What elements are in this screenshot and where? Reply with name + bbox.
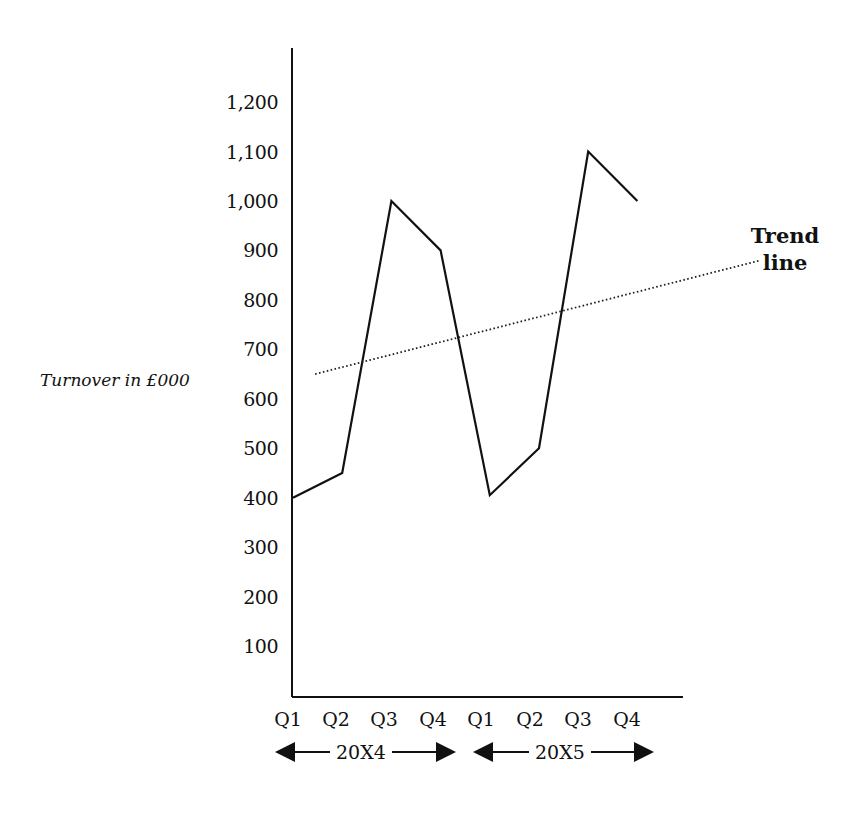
y-tick-label: 300 <box>198 537 278 557</box>
y-tick-label: 400 <box>198 488 278 508</box>
x-tick-label: Q4 <box>413 708 453 730</box>
y-axis-label: Turnover in £000 <box>40 370 190 390</box>
annotation-line-1: Trend <box>735 222 835 249</box>
x-tick-label: Q2 <box>510 708 550 730</box>
x-tick-label: Q3 <box>558 708 598 730</box>
y-tick-label: 1,200 <box>198 92 278 112</box>
turnover-line <box>293 152 637 498</box>
period-label-20x5: 20X5 <box>529 741 591 763</box>
y-tick-label: 500 <box>198 438 278 458</box>
annotation-line-2: line <box>735 249 835 276</box>
y-tick-label: 1,100 <box>198 142 278 162</box>
y-tick-label: 1,000 <box>198 191 278 211</box>
period-label-20x4: 20X4 <box>330 741 392 763</box>
chart-canvas <box>0 0 846 820</box>
y-tick-label: 900 <box>198 240 278 260</box>
x-tick-label: Q4 <box>607 708 647 730</box>
x-tick-label: Q1 <box>268 708 308 730</box>
y-tick-label: 100 <box>198 636 278 656</box>
y-tick-label: 200 <box>198 587 278 607</box>
x-tick-label: Q2 <box>316 708 356 730</box>
y-tick-label: 600 <box>198 389 278 409</box>
y-tick-label: 700 <box>198 339 278 359</box>
trend-line-annotation: Trend line <box>735 222 835 276</box>
trend-line <box>315 260 760 374</box>
x-tick-label: Q3 <box>364 708 404 730</box>
x-tick-label: Q1 <box>461 708 501 730</box>
y-tick-label: 800 <box>198 290 278 310</box>
